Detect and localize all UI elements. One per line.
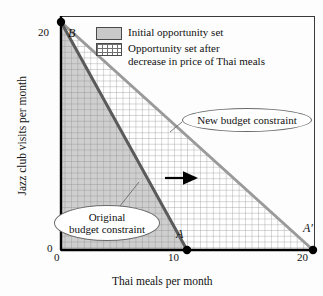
point-a-marker — [183, 246, 191, 254]
y-tick-label-0: 0 — [47, 243, 53, 254]
y-tick-label-20: 20 — [38, 27, 49, 38]
y-axis-title: Jazz club visits per month — [17, 66, 29, 206]
point-a-prime-marker — [309, 246, 317, 254]
legend-label-initial-set: Initial opportunity set — [128, 26, 223, 39]
callout-original-budget-constraint-line1: Original — [89, 211, 126, 223]
legend-swatch-grid-icon — [96, 43, 122, 56]
point-a-prime-label: A′ — [303, 222, 313, 234]
legend-label-new-set-line2: decrease in price of Thai meals — [128, 55, 265, 67]
point-a-label: A — [176, 228, 183, 240]
legend-swatch-solid-icon — [96, 27, 122, 40]
budget-constraint-figure: Initial opportunity set Opportunity set … — [0, 0, 323, 296]
callout-original-budget-constraint-line2: budget constraint — [69, 223, 145, 235]
callout-new-budget-constraint-label: New budget constraint — [197, 114, 297, 126]
x-tick-label-10: 10 — [168, 252, 179, 263]
legend-item-new-set: Opportunity set after decrease in price … — [96, 42, 296, 67]
legend: Initial opportunity set Opportunity set … — [96, 26, 296, 69]
legend-item-initial-set: Initial opportunity set — [96, 26, 296, 40]
x-tick-label-0: 0 — [54, 252, 60, 263]
legend-label-new-set-line1: Opportunity set after — [128, 42, 220, 54]
legend-label-new-set-wrapper: Opportunity set after decrease in price … — [128, 42, 265, 67]
callout-new-budget-constraint: New budget constraint — [182, 108, 312, 132]
point-b-marker — [57, 18, 65, 26]
x-tick-label-20: 20 — [297, 252, 308, 263]
point-b-label: B — [68, 27, 75, 39]
x-axis-title: Thai meals per month — [112, 276, 213, 288]
callout-original-budget-constraint: Original budget constraint — [54, 205, 160, 241]
